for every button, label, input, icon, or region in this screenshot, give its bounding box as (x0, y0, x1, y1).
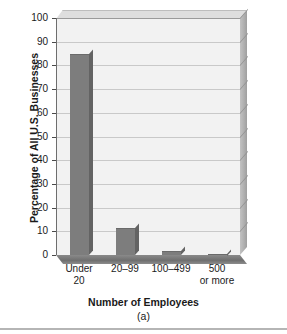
y-axis-tick-label: 20 (18, 203, 48, 213)
bottom-rule-divider (0, 328, 287, 330)
x-axis-tick-label-line2: 20 (44, 275, 114, 287)
x-axis-tick-label: 500or more (182, 263, 252, 286)
y-axis-tick-label: 70 (18, 84, 48, 94)
y-axis-tick-mark (52, 255, 56, 256)
bar-side-face (181, 247, 185, 255)
y-axis-tick-label: 0 (18, 250, 48, 260)
bar-series (56, 18, 240, 255)
bar-side-face (89, 49, 93, 255)
bar (162, 251, 181, 255)
bar (116, 228, 135, 255)
y-axis-tick-label: 60 (18, 108, 48, 118)
bar (208, 254, 227, 256)
bar-side-face (227, 249, 231, 255)
y-axis-tick-label: 80 (18, 60, 48, 70)
y-axis-tick-label: 50 (18, 132, 48, 142)
bar (70, 54, 89, 255)
x-axis-tick-label-line2: or more (182, 275, 252, 287)
bar-side-face (135, 223, 139, 255)
y-axis-tick-label: 90 (18, 37, 48, 47)
y-axis-tick-label: 10 (18, 226, 48, 236)
y-axis-tick-label: 100 (18, 13, 48, 23)
figure-caption: (a) (0, 310, 287, 322)
x-axis-title: Number of Employees (0, 296, 287, 308)
y-axis-tick-label: 30 (18, 179, 48, 189)
y-axis-tick-label: 40 (18, 155, 48, 165)
bar-chart-figure: PERSENDUEB STAAR ES in SUCIETY Percentag… (0, 0, 287, 334)
